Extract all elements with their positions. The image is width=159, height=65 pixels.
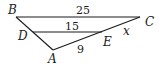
triangle-diagram: B C D E A 25 15 9 x — [0, 0, 159, 65]
length-label-ae: 9 — [77, 43, 84, 56]
vertex-label-a: A — [47, 52, 57, 65]
vertex-label-e: E — [102, 35, 112, 49]
vertex-label-b: B — [7, 3, 17, 17]
length-label-bc: 25 — [76, 4, 90, 17]
vertex-label-c: C — [145, 15, 154, 29]
length-label-ec: x — [123, 24, 130, 38]
length-label-de: 15 — [65, 20, 79, 33]
vertex-label-d: D — [17, 29, 28, 43]
